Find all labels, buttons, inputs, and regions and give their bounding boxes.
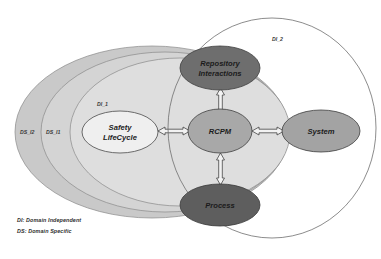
node-system[interactable]: System [282, 110, 360, 152]
node-label-repository-interactions-line2: Interactions [198, 69, 241, 78]
environment-label-di-1: DI_1 [97, 101, 108, 107]
environment-label-ds-i2: DS_I2 [20, 129, 35, 135]
node-rcpm[interactable]: RCPM [188, 109, 252, 153]
legend-item-di: DI: Domain Independent [17, 217, 81, 223]
node-label-process: Process [205, 201, 235, 210]
node-label-safety-lifecycle-line1: Safety [109, 123, 133, 132]
node-safety-lifecycle[interactable]: Safety LifeCycle [82, 111, 158, 153]
node-process[interactable]: Process [180, 184, 260, 226]
node-label-repository-interactions-line1: Repository [200, 59, 240, 68]
environment-label-ds-i1: DS_I1 [46, 129, 61, 135]
node-repository-interactions[interactable]: Repository Interactions [180, 46, 260, 90]
node-label-rcpm: RCPM [209, 127, 232, 136]
node-label-safety-lifecycle-line2: LifeCycle [103, 133, 138, 142]
diagram-canvas: DS_I2 DS_I1 DI_1 DI_2 [0, 0, 381, 259]
environment-label-di-2: DI_2 [272, 36, 283, 42]
node-label-system: System [307, 127, 334, 136]
legend-item-ds: DS: Domain Specific [17, 228, 72, 234]
